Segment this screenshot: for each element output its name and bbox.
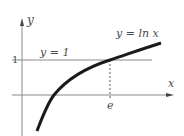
- y-tick-1: 1: [12, 55, 18, 65]
- x-axis-label: x: [168, 78, 174, 89]
- x-tick-e: e: [107, 100, 114, 111]
- curve-label: y = ln x: [116, 28, 159, 39]
- y-axis-label: y: [27, 14, 34, 26]
- hline-label: y = 1: [40, 47, 69, 58]
- y-axis-arrow-icon: [20, 18, 24, 26]
- x-axis-arrow-icon: [166, 93, 174, 97]
